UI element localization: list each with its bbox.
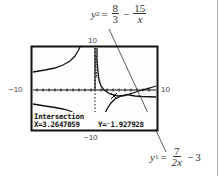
status-x-value: X=3.2647059 <box>34 121 80 129</box>
status-y-value: Y=⁻1.927928 <box>98 121 144 129</box>
calculator-graph <box>0 0 219 176</box>
